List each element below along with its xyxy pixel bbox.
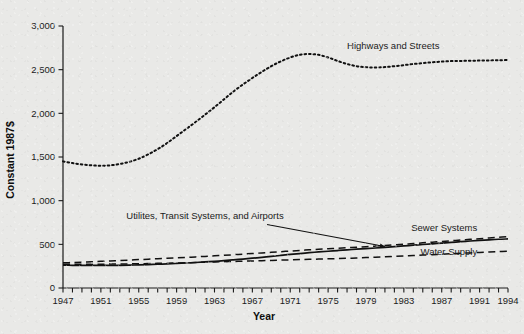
x-tick-label: 1994 [497,295,518,306]
x-tick-label: 1975 [318,295,339,306]
annotation-arrow-line [267,225,385,247]
series-label-0: Highways and Streets [347,40,440,51]
annotation-group [267,225,385,248]
y-tick-label: 1,000 [31,195,55,206]
y-tick-label: 2,500 [31,64,55,75]
y-axis-ticks [59,26,64,288]
x-tick-label: 1971 [280,295,301,306]
line-chart: 05001,0001,5002,0002,5003,000 1947195119… [0,0,524,334]
y-axis-title: Constant 1987$ [4,121,16,199]
x-tick-label: 1987 [431,295,452,306]
series-label-3: Water Supply [421,246,478,257]
y-tick-label: 500 [39,239,55,250]
x-tick-label: 1959 [166,295,187,306]
x-tick-label: 1967 [242,295,263,306]
series-label-group: Highways and StreetsUtilites, Transit Sy… [126,40,477,257]
x-tick-label: 1983 [393,295,414,306]
y-axis-tick-labels: 05001,0001,5002,0002,5003,000 [31,20,55,293]
series-label-1: Utilites, Transit Systems, and Airports [126,210,284,221]
x-tick-label: 1951 [90,295,111,306]
x-tick-label: 1947 [52,295,73,306]
series-label-2: Sewer Systems [411,222,477,233]
chart-container: 05001,0001,5002,0002,5003,000 1947195119… [0,0,524,334]
y-tick-label: 1,500 [31,151,55,162]
data-series-group [63,54,508,266]
x-tick-label: 1955 [128,295,149,306]
x-tick-label: 1963 [204,295,225,306]
x-axis-title: Year [253,310,275,322]
series-line-0 [63,54,508,166]
x-axis-tick-labels: 1947195119551959196319671971197519791983… [52,295,518,306]
x-axis-ticks [63,288,508,293]
y-tick-label: 2,000 [31,108,55,119]
x-tick-label: 1979 [355,295,376,306]
x-tick-label: 1991 [469,295,490,306]
y-tick-label: 0 [50,282,55,293]
y-tick-label: 3,000 [31,20,55,31]
